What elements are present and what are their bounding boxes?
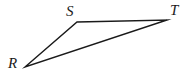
vertex-label-r: R: [8, 56, 17, 71]
vertex-label-s: S: [66, 4, 74, 19]
triangle-rst-outline: [25, 20, 167, 67]
vertex-label-t: T: [170, 3, 178, 18]
triangle-diagram: R S T: [0, 0, 188, 82]
triangle-shape: [0, 0, 188, 82]
